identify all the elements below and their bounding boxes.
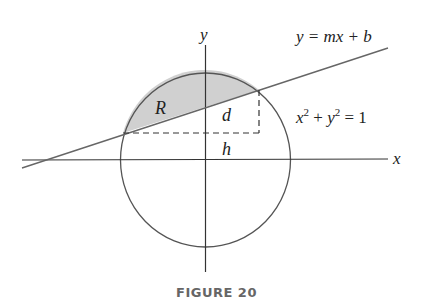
x-axis-label: x xyxy=(392,149,401,168)
line-equation-label: y = mx + b xyxy=(294,27,372,46)
svg-text:x2 + y2 = 1: x2 + y2 = 1 xyxy=(295,106,367,127)
y-axis-label: y xyxy=(198,25,208,44)
circle-equation-label: x2 + y2 = 1 xyxy=(295,106,367,127)
height-h-label: h xyxy=(222,139,231,159)
region-r-label: R xyxy=(154,98,166,118)
diagram-canvas: y x y = mx + b x2 + y2 = 1 R d h FIGURE … xyxy=(0,0,421,303)
figure-caption: FIGURE 20 xyxy=(176,285,257,300)
distance-d-label: d xyxy=(222,105,232,125)
